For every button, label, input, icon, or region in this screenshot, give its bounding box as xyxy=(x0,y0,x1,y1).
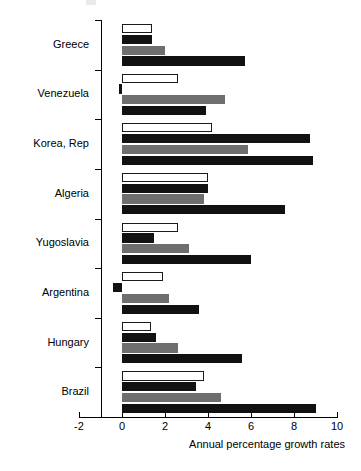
value-axis-tick-label: 2 xyxy=(145,420,185,433)
bar xyxy=(122,194,204,203)
bar xyxy=(122,56,245,65)
category-axis-tick xyxy=(95,219,102,220)
bar xyxy=(122,244,189,253)
bar xyxy=(122,322,151,331)
category-label: Argentina xyxy=(42,286,89,299)
value-axis-tick-label: 10 xyxy=(317,420,357,433)
bar xyxy=(122,382,196,391)
bar xyxy=(122,294,169,303)
category-axis-tick xyxy=(95,20,102,21)
value-axis-tick xyxy=(79,412,80,418)
category-label: Yugoslavia xyxy=(36,236,89,249)
bar xyxy=(122,371,204,380)
category-axis-tick xyxy=(95,268,102,269)
category-axis-tick xyxy=(95,367,102,368)
bar xyxy=(122,145,248,154)
category-axis-tick xyxy=(95,70,102,71)
bar xyxy=(122,184,208,193)
category-axis-tick xyxy=(95,169,102,170)
bar xyxy=(122,233,154,242)
category-label: Hungary xyxy=(47,336,89,349)
bar xyxy=(122,205,285,214)
bar xyxy=(122,123,212,132)
scan-artifact xyxy=(86,0,96,5)
bar xyxy=(122,24,152,33)
bar xyxy=(122,173,208,182)
value-axis-tick-label: -2 xyxy=(59,420,99,433)
bar xyxy=(122,46,165,55)
value-axis-tick xyxy=(337,412,338,418)
category-label: Korea, Rep xyxy=(33,137,89,150)
bar-chart: GreeceVenezuelaKorea, RepAlgeriaYugoslav… xyxy=(0,0,361,471)
bar xyxy=(122,255,251,264)
category-axis-tick xyxy=(95,417,102,418)
bar xyxy=(122,156,313,165)
category-axis-tick xyxy=(95,119,102,120)
x-axis-title: Annual percentage growth rates xyxy=(0,438,345,451)
category-axis-tick xyxy=(95,318,102,319)
category-label: Brazil xyxy=(61,385,89,398)
bar xyxy=(122,134,310,143)
bar xyxy=(122,74,178,83)
category-label: Greece xyxy=(53,38,89,51)
value-axis-tick-label: 8 xyxy=(274,420,314,433)
bar xyxy=(122,95,225,104)
value-axis-tick-label: 6 xyxy=(231,420,271,433)
bar xyxy=(122,35,152,44)
bar xyxy=(122,354,242,363)
bar xyxy=(122,393,221,402)
bar xyxy=(122,106,206,115)
category-label: Venezuela xyxy=(38,87,89,100)
value-axis-tick-label: 4 xyxy=(188,420,228,433)
bar xyxy=(122,404,316,413)
bar xyxy=(122,343,178,352)
bar xyxy=(122,223,178,232)
bar xyxy=(122,272,163,281)
bar xyxy=(113,283,122,292)
bar xyxy=(122,333,156,342)
bar xyxy=(122,305,199,314)
bar xyxy=(119,84,122,93)
category-label: Algeria xyxy=(55,187,89,200)
value-axis-tick-label: 0 xyxy=(102,420,142,433)
